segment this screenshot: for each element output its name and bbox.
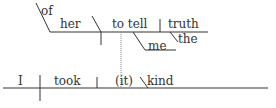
- word-it: (it): [115, 75, 133, 87]
- her-slash-line: [92, 16, 101, 32]
- word-truth: truth: [168, 18, 199, 30]
- word-the: the: [178, 33, 198, 45]
- word-of: of: [41, 5, 53, 17]
- word-me: me: [148, 40, 166, 52]
- sentence-diagram: of her to tell truth the me I took (it) …: [0, 0, 276, 108]
- word-her: her: [60, 18, 81, 30]
- word-took: took: [54, 75, 81, 87]
- me-slant-line: [133, 32, 145, 50]
- word-to-tell: to tell: [112, 18, 147, 30]
- word-I: I: [18, 75, 23, 87]
- the-slant-line: [170, 32, 178, 42]
- word-kind: kind: [147, 75, 174, 87]
